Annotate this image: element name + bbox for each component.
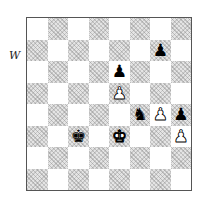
square-f5[interactable] — [130, 83, 151, 105]
square-d2[interactable] — [89, 147, 110, 169]
square-b8[interactable] — [48, 18, 69, 40]
square-g7[interactable]: ♟ — [150, 40, 171, 62]
square-a8[interactable] — [27, 18, 48, 40]
square-g5[interactable] — [150, 83, 171, 105]
square-g4[interactable]: ♟ — [150, 104, 171, 126]
square-b4[interactable] — [48, 104, 69, 126]
square-g1[interactable] — [150, 169, 171, 191]
square-a2[interactable] — [27, 147, 48, 169]
square-f8[interactable] — [130, 18, 151, 40]
square-b6[interactable] — [48, 61, 69, 83]
square-a1[interactable] — [27, 169, 48, 191]
square-c7[interactable] — [68, 40, 89, 62]
square-g6[interactable] — [150, 61, 171, 83]
square-e8[interactable] — [109, 18, 130, 40]
square-a4[interactable] — [27, 104, 48, 126]
square-c1[interactable] — [68, 169, 89, 191]
square-c6[interactable] — [68, 61, 89, 83]
square-d7[interactable] — [89, 40, 110, 62]
square-f4[interactable]: ♞ — [130, 104, 151, 126]
square-e4[interactable] — [109, 104, 130, 126]
square-e5[interactable]: ♟ — [109, 83, 130, 105]
side-to-move-label: W — [9, 49, 20, 62]
square-a7[interactable] — [27, 40, 48, 62]
chess-board[interactable]: ♟♟♟♞♟♟♚♚♟ — [26, 17, 192, 191]
square-d5[interactable] — [89, 83, 110, 105]
square-b3[interactable] — [48, 126, 69, 148]
square-d1[interactable] — [89, 169, 110, 191]
square-d6[interactable] — [89, 61, 110, 83]
square-g3[interactable] — [150, 126, 171, 148]
square-g8[interactable] — [150, 18, 171, 40]
square-h1[interactable] — [171, 169, 192, 191]
square-h6[interactable] — [171, 61, 192, 83]
square-c2[interactable] — [68, 147, 89, 169]
white-pawn-icon[interactable]: ♟ — [153, 106, 168, 123]
square-c8[interactable] — [68, 18, 89, 40]
square-f6[interactable] — [130, 61, 151, 83]
square-f2[interactable] — [130, 147, 151, 169]
square-d4[interactable] — [89, 104, 110, 126]
square-b2[interactable] — [48, 147, 69, 169]
square-d8[interactable] — [89, 18, 110, 40]
square-e1[interactable] — [109, 169, 130, 191]
black-pawn-icon[interactable]: ♟ — [153, 42, 168, 59]
square-c3[interactable]: ♚ — [68, 126, 89, 148]
square-h8[interactable] — [171, 18, 192, 40]
white-pawn-icon[interactable]: ♟ — [173, 128, 188, 145]
square-b7[interactable] — [48, 40, 69, 62]
square-h3[interactable]: ♟ — [171, 126, 192, 148]
square-h5[interactable] — [171, 83, 192, 105]
square-b5[interactable] — [48, 83, 69, 105]
black-king-icon[interactable]: ♚ — [71, 128, 86, 145]
black-knight-icon[interactable]: ♞ — [132, 106, 147, 123]
square-b1[interactable] — [48, 169, 69, 191]
square-c5[interactable] — [68, 83, 89, 105]
square-e2[interactable] — [109, 147, 130, 169]
square-a3[interactable] — [27, 126, 48, 148]
square-f3[interactable] — [130, 126, 151, 148]
square-e6[interactable]: ♟ — [109, 61, 130, 83]
square-f1[interactable] — [130, 169, 151, 191]
square-a6[interactable] — [27, 61, 48, 83]
square-c4[interactable] — [68, 104, 89, 126]
square-h7[interactable] — [171, 40, 192, 62]
black-pawn-icon[interactable]: ♟ — [112, 63, 127, 80]
square-f7[interactable] — [130, 40, 151, 62]
white-king-icon[interactable]: ♚ — [112, 128, 127, 145]
square-e3[interactable]: ♚ — [109, 126, 130, 148]
square-h2[interactable] — [171, 147, 192, 169]
white-pawn-icon[interactable]: ♟ — [112, 85, 127, 102]
black-pawn-icon[interactable]: ♟ — [173, 106, 188, 123]
square-a5[interactable] — [27, 83, 48, 105]
square-e7[interactable] — [109, 40, 130, 62]
square-g2[interactable] — [150, 147, 171, 169]
square-d3[interactable] — [89, 126, 110, 148]
square-h4[interactable]: ♟ — [171, 104, 192, 126]
